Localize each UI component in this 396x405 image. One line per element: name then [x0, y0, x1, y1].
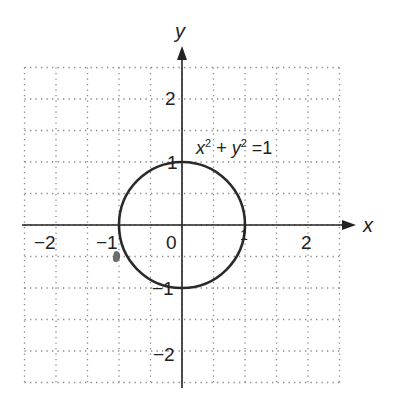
eq-y: y: [232, 138, 241, 158]
y-tick-label-neg1: −1: [152, 279, 174, 298]
y-tick-label-1: 1: [167, 153, 178, 172]
x-axis-label: x: [363, 214, 373, 237]
x-tick-label-1: 1: [240, 228, 248, 242]
eq-plus: +: [211, 138, 232, 158]
eq-rhs: =1: [247, 138, 273, 158]
y-tick-label-2: 2: [165, 89, 176, 108]
eq-x: x: [196, 138, 205, 158]
equation-annotation: x2 + y2 =1: [196, 137, 272, 159]
x-tick-label-neg2: −2: [34, 233, 56, 252]
x-axis-arrow-icon: [342, 220, 356, 230]
y-axis-label: y: [175, 20, 185, 43]
axes: [22, 46, 356, 388]
x-tick-label-neg1: −1: [96, 233, 118, 252]
chart-canvas: [0, 0, 396, 405]
x-tick-label-0: 0: [166, 233, 177, 252]
y-tick-label-neg2: −2: [153, 345, 175, 364]
y-axis-arrow-icon: [177, 46, 187, 60]
x-tick-label-2: 2: [301, 233, 312, 252]
